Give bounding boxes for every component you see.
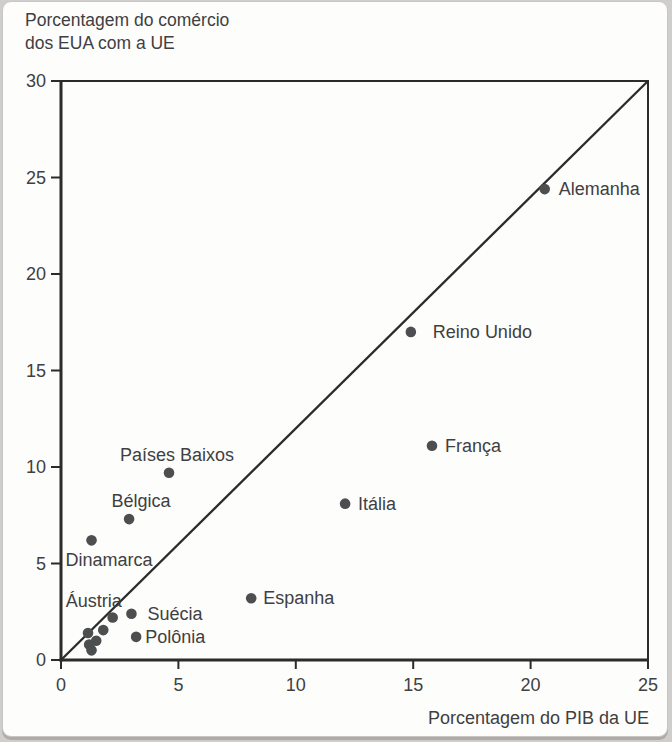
data-point-label: Suécia: [147, 604, 203, 624]
data-point-label: Dinamarca: [66, 550, 154, 570]
data-point-label: Reino Unido: [433, 322, 532, 342]
y-tick-label: 0: [36, 650, 46, 670]
y-tick-label: 30: [26, 71, 46, 91]
data-point-label: França: [445, 436, 502, 456]
data-point: [539, 184, 550, 195]
data-point: [406, 327, 417, 338]
x-tick-label: 25: [638, 675, 658, 695]
x-tick-label: 20: [521, 675, 541, 695]
data-point-label: Polônia: [145, 627, 206, 647]
x-tick-label: 15: [403, 675, 423, 695]
data-point-label: Espanha: [263, 588, 335, 608]
data-point-label: Bélgica: [112, 491, 172, 511]
data-point-label: Áustria: [66, 591, 123, 611]
x-tick-label: 0: [56, 675, 66, 695]
data-point: [98, 625, 109, 636]
data-point: [164, 467, 175, 478]
y-tick-label: 5: [36, 554, 46, 574]
data-point: [340, 498, 351, 509]
data-point: [86, 645, 97, 656]
y-tick-label: 15: [26, 361, 46, 381]
y-tick-label: 20: [26, 264, 46, 284]
scatter-chart: 0510152025051015202530AlemanhaReino Unid…: [0, 0, 672, 742]
data-point-label: Países Baixos: [120, 445, 234, 465]
data-point: [124, 514, 135, 525]
x-tick-label: 5: [173, 675, 183, 695]
y-tick-label: 25: [26, 168, 46, 188]
data-point: [131, 632, 142, 643]
data-point: [86, 535, 97, 546]
data-point-label: Itália: [358, 494, 397, 514]
data-point: [107, 612, 118, 623]
data-point-label: Alemanha: [559, 179, 641, 199]
diagonal-reference-line: [61, 81, 648, 660]
data-point: [246, 593, 257, 604]
data-point: [126, 608, 137, 619]
y-tick-label: 10: [26, 457, 46, 477]
x-tick-label: 10: [286, 675, 306, 695]
x-axis-title: Porcentagem do PIB da UE: [0, 708, 649, 729]
data-point: [83, 628, 94, 639]
data-point: [427, 440, 438, 451]
